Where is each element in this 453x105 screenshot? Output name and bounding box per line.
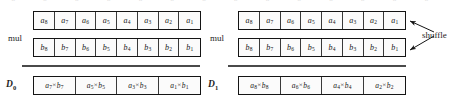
register-cell: b6 [76, 39, 97, 56]
result-cell: a4×b4 [322, 77, 364, 94]
operand-register-b-left: b8 b7 b6 b5 b4 b3 b2 b1 [33, 38, 201, 57]
register-cell: b8 [34, 39, 55, 56]
register-cell: a8 [239, 12, 260, 29]
register-cell: b3 [138, 39, 159, 56]
register-cell: b4 [117, 39, 138, 56]
register-cell: b7 [55, 39, 76, 56]
register-cell: b1 [384, 39, 405, 56]
operand-register-a-left: a8 a7 a6 a5 a4 a3 a2 a1 [33, 11, 201, 30]
mul-operation-label-right: mul [210, 33, 224, 43]
result-cell: a3×b3 [117, 77, 159, 94]
register-cell: a7 [55, 12, 76, 29]
shuffle-annotation-label: shuffle [422, 30, 447, 40]
register-cell: a5 [96, 12, 117, 29]
diagram-panel-right: mul a8 a7 a6 a5 a4 a3 a2 a1 b8 b7 b6 b5 … [226, 0, 453, 105]
operation-separator-rule-right [228, 65, 406, 67]
register-cell: a1 [179, 12, 200, 29]
register-cell: b5 [301, 39, 322, 56]
register-cell: b2 [364, 39, 385, 56]
register-cell: a7 [260, 12, 281, 29]
register-cell: b4 [322, 39, 343, 56]
mul-operation-label-left: mul [8, 33, 22, 43]
result-cell: a8×b8 [239, 77, 281, 94]
register-cell: a3 [343, 12, 364, 29]
result-register-label-right: D1 [208, 79, 218, 91]
register-cell: a2 [159, 12, 180, 29]
result-cell: a2×b2 [364, 77, 405, 94]
register-cell: b3 [343, 39, 364, 56]
register-cell: a3 [138, 12, 159, 29]
register-cell: a6 [281, 12, 302, 29]
register-cell: b2 [159, 39, 180, 56]
result-cell: a6×b6 [281, 77, 323, 94]
result-register-right: a8×b8 a6×b6 a4×b4 a2×b2 [238, 76, 406, 95]
register-cell: a1 [384, 12, 405, 29]
register-cell: b7 [260, 39, 281, 56]
register-cell: b8 [239, 39, 260, 56]
register-cell: b1 [179, 39, 200, 56]
result-cell: a1×b1 [159, 77, 200, 94]
diagram-panel-left: mul a8 a7 a6 a5 a4 a3 a2 a1 b8 b7 b6 b5 … [0, 0, 226, 105]
register-cell: b5 [96, 39, 117, 56]
register-cell: a8 [34, 12, 55, 29]
result-register-label-left: D0 [6, 79, 16, 91]
register-cell: a4 [117, 12, 138, 29]
result-register-left: a7×b7 a5×b5 a3×b3 a1×b1 [33, 76, 201, 95]
result-cell: a5×b5 [76, 77, 118, 94]
register-cell: a5 [301, 12, 322, 29]
operation-separator-rule-left [22, 65, 200, 67]
register-cell: a2 [364, 12, 385, 29]
result-cell: a7×b7 [34, 77, 76, 94]
operand-register-b-right: b8 b7 b6 b5 b4 b3 b2 b1 [238, 38, 406, 57]
register-cell: a6 [76, 12, 97, 29]
register-cell: a4 [322, 12, 343, 29]
operand-register-a-right: a8 a7 a6 a5 a4 a3 a2 a1 [238, 11, 406, 30]
register-cell: b6 [281, 39, 302, 56]
